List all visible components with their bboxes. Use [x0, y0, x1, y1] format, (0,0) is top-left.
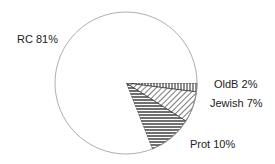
label-jewish: Jewish 7%	[210, 97, 263, 109]
label-prot: Prot 10%	[190, 138, 235, 150]
label-oldb: OldB 2%	[214, 78, 258, 90]
pie-chart: RC 81% OldB 2% Jewish 7% Prot 10%	[0, 0, 275, 164]
label-rc: RC 81%	[17, 33, 58, 45]
